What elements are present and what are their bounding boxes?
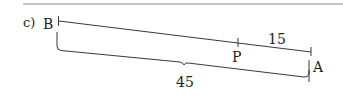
segment-diagram: c) B P A 15 45 xyxy=(0,0,343,96)
point-label-p: P xyxy=(232,49,241,65)
point-label-b: B xyxy=(43,16,53,32)
diagram-canvas: c) B P A 15 45 xyxy=(0,0,343,96)
problem-label: c) xyxy=(23,15,35,30)
measure-pa: 15 xyxy=(268,31,286,47)
measure-ba: 45 xyxy=(176,74,194,90)
point-label-a: A xyxy=(312,59,324,75)
